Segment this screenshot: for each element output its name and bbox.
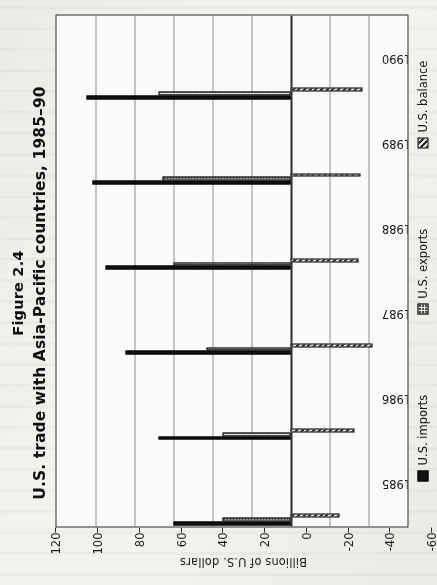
plot-column: 198519861987198819891990 U.S. importsU.S… (55, 14, 431, 527)
bar-group (56, 185, 407, 270)
x-axis-tick-label-1985: 1985 (381, 476, 408, 490)
rotated-figure-container: Figure 2.4 U.S. trade with Asia-Pacific … (0, 0, 437, 585)
bar-balance-1987[interactable] (290, 343, 372, 347)
bar-balance-1985[interactable] (290, 513, 339, 517)
legend-label-balance: U.S. balance (415, 60, 429, 132)
y-axis-tick-label: 20 (257, 532, 271, 547)
bar-exports-1986[interactable] (222, 432, 290, 436)
bar-group (56, 271, 407, 356)
bar-balance-1990[interactable] (290, 87, 362, 91)
legend-label-imports: U.S. imports (415, 394, 429, 465)
bar-group (56, 441, 407, 526)
y-axis-tick-label: -60 (424, 532, 437, 551)
figure: Figure 2.4 U.S. trade with Asia-Pacific … (0, 0, 437, 585)
y-axis-tick-mark (138, 527, 139, 532)
x-axis-tick-label-1986: 1986 (381, 391, 408, 405)
bar-exports-1988[interactable] (173, 262, 290, 266)
y-axis-title-text: Billions of U.S. dollars (180, 555, 307, 569)
bar-exports-1987[interactable] (206, 347, 290, 351)
x-axis-tick-label-1990: 1990 (381, 51, 408, 65)
chart-legend: U.S. importsU.S. exportsU.S. balance (408, 14, 431, 527)
y-axis-tick-mark (347, 527, 348, 532)
y-axis-tick-label: 80 (132, 532, 146, 547)
bar-exports-1990[interactable] (158, 91, 290, 95)
bar-imports-1985[interactable] (173, 521, 290, 525)
y-axis-tick-mark (55, 527, 56, 532)
bar-group (56, 15, 407, 100)
bar-balance-1988[interactable] (290, 258, 358, 262)
bar-exports-1989[interactable] (162, 176, 291, 180)
y-axis-tick-mark (180, 527, 181, 532)
plot-frame: 198519861987198819891990 (55, 14, 408, 527)
y-axis-tick-label: -20 (341, 532, 355, 551)
y-axis-tick-mark (431, 527, 432, 532)
bar-balance-1986[interactable] (290, 428, 354, 432)
y-axis-tick-label: 60 (174, 532, 188, 547)
bar-group (56, 356, 407, 441)
legend-swatch-balance-icon (417, 137, 428, 148)
bar-imports-1988[interactable] (105, 265, 290, 269)
y-axis-title: Billions of U.S. dollars (55, 553, 431, 571)
y-axis-ticks: 120100806040200-20-40-60 (55, 527, 431, 553)
y-axis-tick-mark (97, 527, 98, 532)
bar-imports-1987[interactable] (125, 350, 291, 354)
legend-item-balance[interactable]: U.S. balance (415, 60, 429, 148)
x-axis-tick-label-1989: 1989 (381, 136, 408, 150)
legend-item-imports[interactable]: U.S. imports (415, 394, 429, 481)
y-axis-tick-label: 100 (90, 532, 104, 554)
y-axis-tick-label: 40 (215, 532, 229, 547)
bar-balance-1989[interactable] (290, 173, 360, 177)
y-axis-tick-mark (389, 527, 390, 532)
y-axis-tick-mark (222, 527, 223, 532)
bar-imports-1986[interactable] (158, 436, 290, 440)
source-note-container: SOURCE: OECD Monthly Statistics on Trade… (393, 282, 437, 304)
figure-title: U.S. trade with Asia-Pacific countries, … (29, 14, 50, 571)
bar-imports-1989[interactable] (92, 180, 291, 184)
x-axis-tick-label-1987: 1987 (381, 306, 408, 320)
bar-group (56, 100, 407, 185)
bar-exports-1985[interactable] (222, 517, 290, 521)
figure-number: Figure 2.4 (8, 14, 28, 571)
y-axis-tick-label: 120 (48, 532, 62, 554)
bar-imports-1990[interactable] (86, 95, 290, 99)
figure-title-block: Figure 2.4 U.S. trade with Asia-Pacific … (8, 14, 49, 571)
y-axis-tick-mark (305, 527, 306, 532)
x-axis-tick-label-1988: 1988 (381, 221, 408, 235)
y-axis-tick-label: -40 (382, 532, 396, 551)
chart-area: Billions of U.S. dollars 120100806040200… (55, 14, 431, 571)
legend-swatch-imports-icon (417, 470, 428, 481)
y-axis-tick-mark (264, 527, 265, 532)
y-axis-tick-label: 0 (299, 532, 313, 539)
legend-swatch-exports-icon (417, 303, 428, 314)
